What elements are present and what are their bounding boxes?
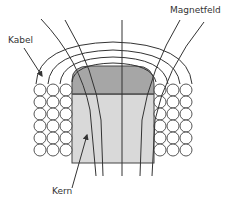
core [72, 66, 154, 163]
label-magnetic-field: Magnetfeld [170, 5, 221, 15]
label-core: Kern [52, 186, 72, 196]
coil-left [34, 84, 72, 156]
cable-pointer-arrow [24, 48, 42, 76]
coil-right [154, 84, 192, 156]
label-cable: Kabel [8, 35, 33, 45]
electromagnet-diagram: Kabel Magnetfeld Kern [0, 0, 226, 208]
